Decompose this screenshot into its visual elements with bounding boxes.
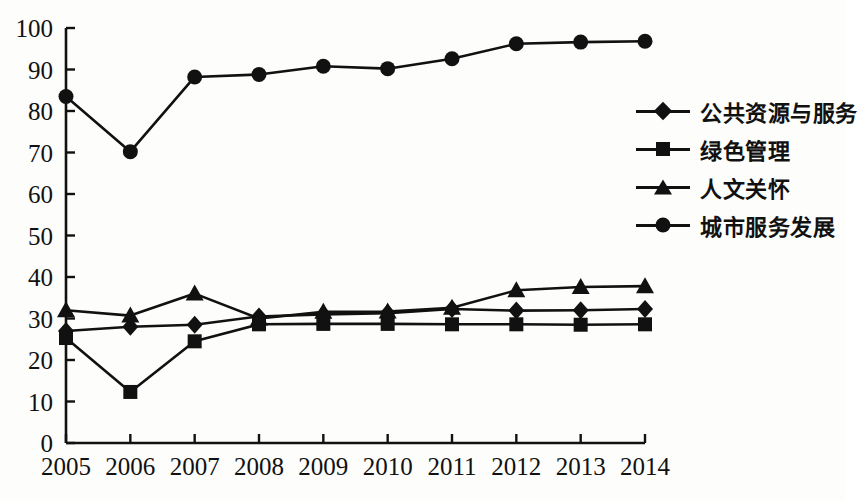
triangle-marker-icon (654, 180, 672, 195)
x-tick-label: 2005 (41, 453, 91, 480)
legend-label: 城市服务发展 (700, 209, 835, 241)
x-tick-label: 2014 (620, 453, 671, 480)
data-point-triangle (186, 285, 204, 301)
data-point-circle (573, 35, 588, 50)
series-lines (66, 41, 645, 392)
legend-item-lv-se-guan-li[interactable]: 绿色管理 (636, 130, 841, 168)
legend-item-ren-wen-guan-huai[interactable]: 人文关怀 (636, 168, 841, 206)
data-point-diamond (508, 302, 524, 320)
y-tick-label: 50 (28, 223, 53, 250)
x-tick-label: 2009 (298, 453, 348, 480)
x-tick-label: 2007 (170, 453, 220, 480)
y-tick-label: 10 (28, 389, 53, 416)
y-tick-label: 30 (28, 306, 53, 333)
axis-ticks (66, 28, 645, 443)
data-point-square (509, 317, 523, 331)
data-point-circle (59, 89, 74, 104)
circle-marker-icon (656, 218, 671, 233)
data-point-square (638, 317, 652, 331)
data-point-square (59, 331, 73, 345)
y-tick-label: 100 (16, 15, 54, 42)
series-markers (57, 34, 654, 399)
axis-lines (66, 28, 645, 443)
legend-item-gong-gong-zi-yuan[interactable]: 公共资源与服务 (636, 92, 841, 130)
data-point-circle (187, 69, 202, 84)
x-tick-label: 2013 (556, 453, 606, 480)
data-point-diamond (637, 300, 653, 318)
chart-legend: 公共资源与服务 绿色管理 人文关怀 城市服务发展 (636, 92, 841, 244)
legend-key-circle (636, 214, 690, 236)
data-point-circle (380, 61, 395, 76)
data-point-square (123, 385, 137, 399)
y-tick-label: 60 (28, 181, 53, 208)
data-point-circle (445, 51, 460, 66)
legend-key-triangle (636, 176, 690, 198)
legend-item-cheng-shi-fu-wu[interactable]: 城市服务发展 (636, 206, 841, 244)
x-tick-label: 2010 (363, 453, 413, 480)
series-line (66, 41, 645, 151)
x-tick-label: 2006 (105, 453, 155, 480)
data-point-diamond (187, 316, 203, 334)
legend-key-square (636, 138, 690, 160)
series-line (66, 324, 645, 392)
legend-label: 公共资源与服务 (700, 95, 858, 127)
data-point-triangle (57, 301, 75, 317)
data-point-circle (638, 34, 653, 49)
y-tick-label: 20 (28, 347, 53, 374)
square-marker-icon (656, 142, 670, 156)
x-tick-label: 2012 (491, 453, 541, 480)
legend-label: 绿色管理 (700, 133, 790, 165)
data-point-circle (123, 144, 138, 159)
data-point-circle (252, 67, 267, 82)
y-tick-label: 80 (28, 98, 53, 125)
data-point-square (316, 317, 330, 331)
data-point-square (445, 317, 459, 331)
data-point-square (381, 317, 395, 331)
x-tick-label: 2011 (427, 453, 476, 480)
data-point-circle (316, 59, 331, 74)
y-tick-label: 70 (28, 140, 53, 167)
data-point-square (574, 318, 588, 332)
x-axis-tick-labels: 2005200620072008200920102011201220132014 (41, 453, 671, 480)
data-point-circle (509, 36, 524, 51)
legend-key-diamond (636, 100, 690, 122)
data-point-diamond (573, 301, 589, 319)
y-axis-tick-labels: 0102030405060708090100 (16, 15, 54, 457)
x-tick-label: 2008 (234, 453, 284, 480)
legend-label: 人文关怀 (700, 171, 790, 203)
diamond-marker-icon (654, 102, 672, 120)
data-point-square (188, 334, 202, 348)
y-tick-label: 40 (28, 264, 53, 291)
y-tick-label: 90 (28, 57, 53, 84)
